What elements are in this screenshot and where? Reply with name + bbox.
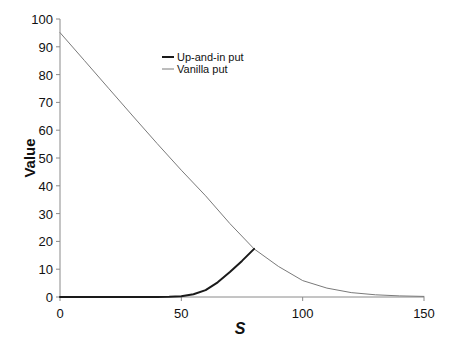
y-tick-label: 80	[39, 68, 53, 83]
x-axis-title: S	[235, 320, 246, 337]
y-tick-label: 90	[39, 40, 53, 55]
y-tick-label: 20	[39, 234, 53, 249]
x-tick-label: 0	[56, 306, 63, 321]
y-axis-title: Value	[21, 138, 38, 177]
legend-label-up-and-in-put: Up-and-in put	[177, 51, 244, 63]
y-tick-label: 50	[39, 151, 53, 166]
y-tick-label: 10	[39, 262, 53, 277]
series-vanilla-put-line	[60, 33, 424, 297]
x-axis: 050100150	[56, 297, 434, 321]
legend-label-vanilla-put: Vanilla put	[177, 63, 228, 75]
legend: Up-and-in put Vanilla put	[162, 51, 244, 75]
y-tick-label: 100	[31, 12, 53, 27]
x-tick-label: 100	[292, 306, 314, 321]
y-tick-label: 30	[39, 207, 53, 222]
y-tick-label: 40	[39, 179, 53, 194]
y-tick-label: 60	[39, 123, 53, 138]
x-tick-label: 150	[413, 306, 435, 321]
y-tick-label: 0	[46, 290, 53, 305]
y-tick-label: 70	[39, 95, 53, 110]
series-up-and-in-put-line	[60, 249, 254, 297]
x-tick-label: 50	[174, 306, 188, 321]
chart: 0102030405060708090100 050100150 Value S…	[0, 0, 456, 356]
plot-area	[60, 33, 424, 297]
